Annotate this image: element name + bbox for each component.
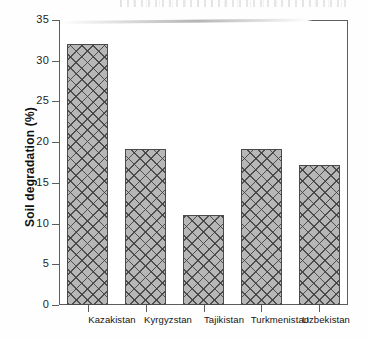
y-axis-tick-label: 30 <box>23 55 49 66</box>
bar-chart-figure: Soil degradation (%) 05101520253035 Kaza… <box>0 0 368 341</box>
y-axis-tick <box>52 264 59 265</box>
y-axis-tick-label: 25 <box>23 95 49 106</box>
bar <box>299 165 340 305</box>
y-axis-tick-label: 10 <box>23 218 49 229</box>
y-axis-tick-label: 15 <box>23 177 49 188</box>
x-axis-tick <box>88 305 89 312</box>
bar <box>183 215 224 305</box>
y-axis-tick <box>52 224 59 225</box>
y-axis-tick <box>52 183 59 184</box>
x-axis-tick <box>261 305 262 312</box>
y-axis-tick-label: 5 <box>23 258 49 269</box>
y-axis-tick <box>52 142 59 143</box>
y-axis-tick <box>52 20 59 21</box>
bar <box>125 149 166 305</box>
y-axis-tick <box>52 61 59 62</box>
y-axis-tick <box>52 305 59 306</box>
y-axis-tick-label: 20 <box>23 136 49 147</box>
bar <box>241 149 282 305</box>
x-axis-tick <box>204 305 205 312</box>
y-axis-tick <box>52 101 59 102</box>
y-axis-tick-label: 35 <box>23 14 49 25</box>
scan-artifact-strip <box>120 0 350 7</box>
x-axis-tick <box>319 305 320 312</box>
y-axis-tick-label: 0 <box>23 299 49 310</box>
x-axis-tick <box>146 305 147 312</box>
x-axis-tick-label: Uzbekistan <box>276 314 368 325</box>
bar <box>67 44 108 305</box>
